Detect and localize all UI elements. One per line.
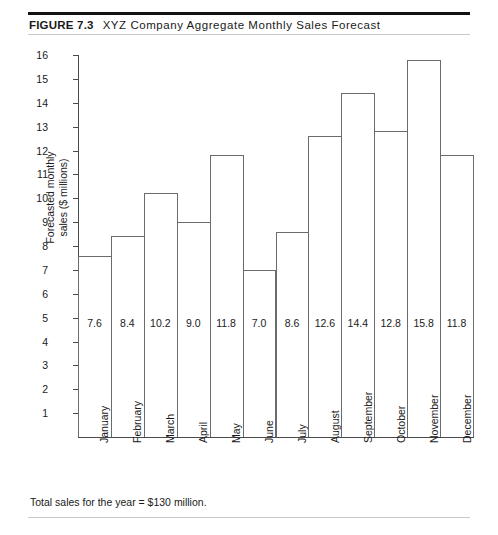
y-tick-label-13: 13 <box>36 122 48 133</box>
bar-divider <box>177 222 178 437</box>
bar-value-april: 9.0 <box>177 318 210 329</box>
y-tick-label-15: 15 <box>36 74 48 85</box>
x-axis-label-august: August <box>329 410 341 443</box>
y-tick-label-3: 3 <box>42 360 48 371</box>
y-tick-label-6: 6 <box>42 289 48 300</box>
y-axis-label-line2: sales ($ millions) <box>56 138 69 258</box>
bar-value-august: 12.6 <box>308 318 341 329</box>
x-axis-label-february: February <box>131 401 143 443</box>
bar-divider <box>111 236 112 437</box>
bar-may <box>210 155 244 437</box>
bar-value-december: 11.8 <box>440 318 473 329</box>
bar-divider <box>276 232 277 437</box>
bar-november <box>407 60 441 437</box>
bar-value-january: 7.6 <box>78 318 111 329</box>
bar-value-june: 7.0 <box>243 318 276 329</box>
bar-value-july: 8.6 <box>276 318 309 329</box>
x-axis-label-march: March <box>164 414 176 443</box>
y-tick-label-7: 7 <box>42 265 48 276</box>
bar-value-may: 11.8 <box>210 318 243 329</box>
bar-divider <box>210 155 211 437</box>
bar-june <box>243 270 277 437</box>
bar-value-february: 8.4 <box>111 318 144 329</box>
x-axis-label-june: June <box>263 420 275 443</box>
bar-march <box>144 193 178 437</box>
x-axis-label-november: November <box>428 395 440 443</box>
bar-divider <box>243 270 244 437</box>
x-axis-label-september: September <box>362 392 374 443</box>
bar-august <box>308 136 342 437</box>
bar-divider <box>440 155 441 437</box>
y-tick-label-2: 2 <box>42 384 48 395</box>
y-tick-label-16: 16 <box>36 50 48 61</box>
header-rule-heavy <box>28 12 470 15</box>
bar-october <box>374 131 408 437</box>
figure-footnote: Total sales for the year = $130 million. <box>30 496 207 508</box>
bar-value-october: 12.8 <box>374 318 407 329</box>
x-axis-label-january: January <box>98 406 110 443</box>
footer-rule-light <box>28 517 470 518</box>
y-tick-label-4: 4 <box>42 337 48 348</box>
bar-divider <box>341 93 342 437</box>
bar-divider <box>374 131 375 437</box>
x-axis-label-october: October <box>395 406 407 443</box>
bar-value-march: 10.2 <box>144 318 177 329</box>
figure-header: FIGURE 7.3 XYZ Company Aggregate Monthly… <box>29 17 381 33</box>
y-tick-label-5: 5 <box>42 313 48 324</box>
x-axis-label-may: May <box>230 423 242 443</box>
x-axis-label-april: April <box>197 422 209 443</box>
bar-april <box>177 222 211 437</box>
bar-september <box>341 93 375 437</box>
y-axis-ticks: 12345678910111213141516 <box>0 0 78 535</box>
y-tick-label-1: 1 <box>42 408 48 419</box>
x-axis-label-july: July <box>296 424 308 443</box>
figure-title: XYZ Company Aggregate Monthly Sales Fore… <box>103 19 381 31</box>
y-axis-label-line1: Forecasted monthly <box>44 138 57 258</box>
header-rule-light <box>28 34 470 35</box>
bar-divider <box>308 136 309 437</box>
bar-value-september: 14.4 <box>341 318 374 329</box>
bar-july <box>276 232 310 437</box>
bar-divider <box>144 193 145 437</box>
bar-value-november: 15.8 <box>407 318 440 329</box>
figure-page: FIGURE 7.3 XYZ Company Aggregate Monthly… <box>0 0 498 535</box>
y-axis-label: Forecasted monthly sales ($ millions) <box>44 138 69 258</box>
y-tick-label-14: 14 <box>36 98 48 109</box>
x-axis-label-december: December <box>461 395 473 443</box>
bar-divider <box>407 60 408 437</box>
